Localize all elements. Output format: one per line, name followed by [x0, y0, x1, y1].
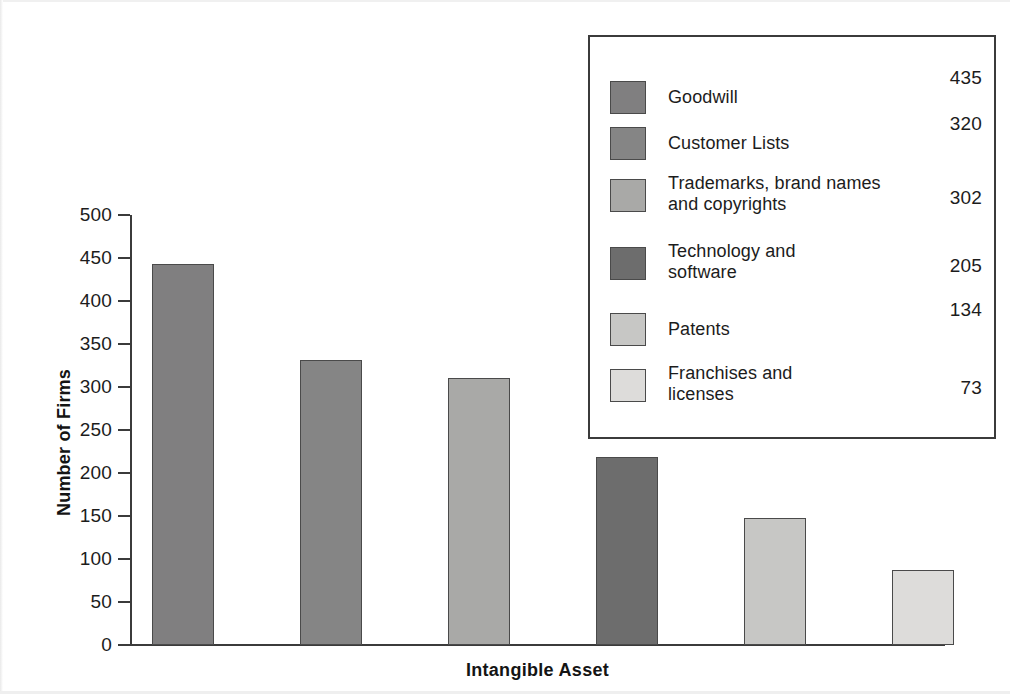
y-tick-mark — [118, 601, 130, 603]
x-axis-title: Intangible Asset — [130, 660, 945, 681]
legend-label-line1: Franchises and — [668, 363, 923, 384]
y-tick-mark — [118, 515, 130, 517]
y-tick-mark — [118, 300, 130, 302]
y-tick-label: 500 — [58, 205, 112, 224]
y-tick-mark — [118, 343, 130, 345]
legend-label-line1: Trademarks, brand names — [668, 173, 923, 194]
bar-1 — [152, 264, 214, 645]
legend-label-line2: licenses — [668, 384, 923, 405]
legend-label-line1: Technology and — [668, 241, 923, 262]
legend-label: Technology andsoftware — [668, 241, 923, 283]
legend-swatch — [610, 179, 646, 212]
legend-label: Franchises andlicenses — [668, 363, 923, 405]
bar-3 — [448, 378, 510, 645]
legend-label-line2: software — [668, 262, 923, 283]
legend-value: 435 — [920, 67, 982, 89]
chart-legend: Goodwill435Customer Lists320Trademarks, … — [588, 35, 996, 439]
legend-value: 205 — [920, 255, 982, 277]
y-axis-line — [130, 215, 132, 646]
y-tick-mark — [118, 386, 130, 388]
y-tick-label: 50 — [58, 592, 112, 611]
legend-value: 320 — [920, 113, 982, 135]
y-tick-label: 100 — [58, 549, 112, 568]
legend-swatch — [610, 313, 646, 346]
x-axis-line — [130, 644, 945, 646]
y-tick-mark — [118, 214, 130, 216]
y-tick-mark — [118, 472, 130, 474]
legend-value: 134 — [920, 299, 982, 321]
y-tick-label: 0 — [58, 635, 112, 654]
y-tick-label: 450 — [58, 248, 112, 267]
legend-label: Goodwill — [668, 87, 923, 108]
y-axis-title: Number of Firms — [54, 343, 75, 543]
y-tick-label: 400 — [58, 291, 112, 310]
y-tick-mark — [118, 257, 130, 259]
legend-value: 302 — [920, 187, 982, 209]
legend-label: Customer Lists — [668, 133, 923, 154]
legend-value: 73 — [920, 377, 982, 399]
legend-swatch — [610, 127, 646, 160]
legend-swatch — [610, 247, 646, 280]
y-tick-mark — [118, 429, 130, 431]
chart-figure: 500450400350300250200150100500 Number of… — [0, 0, 1010, 694]
bar-4 — [596, 457, 658, 645]
y-tick-mark — [118, 644, 130, 646]
legend-label: Trademarks, brand namesand copyrights — [668, 173, 923, 215]
legend-label: Patents — [668, 319, 923, 340]
legend-swatch — [610, 81, 646, 114]
bar-5 — [744, 518, 806, 645]
bar-6 — [892, 570, 954, 645]
y-tick-mark — [118, 558, 130, 560]
bar-2 — [300, 360, 362, 645]
legend-label-line2: and copyrights — [668, 194, 923, 215]
legend-swatch — [610, 369, 646, 402]
